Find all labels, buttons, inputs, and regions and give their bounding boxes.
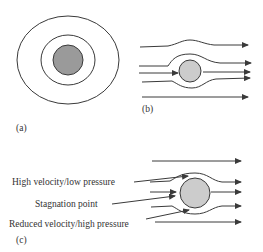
panel-a: (a)	[16, 16, 119, 134]
panel-c	[112, 161, 241, 222]
flow-diagram: (a) (b) High velocity/low pressure Stagn…	[0, 0, 263, 252]
panel-a-label: (a)	[16, 123, 27, 134]
streamline-1	[140, 40, 248, 47]
cylinder-c	[180, 178, 210, 208]
pointer-reduced-velocity	[146, 210, 189, 219]
panel-c-label: (c)	[16, 235, 27, 246]
panel-b	[139, 40, 251, 97]
panel-b-label: (b)	[142, 104, 153, 115]
label-reduced-velocity: Reduced velocity/high pressure	[9, 219, 129, 229]
cylinder-b	[179, 60, 201, 82]
pointer-stagnation	[112, 196, 175, 204]
cylinder-a	[53, 45, 83, 75]
label-high-velocity: High velocity/low pressure	[12, 177, 115, 187]
label-stagnation: Stagnation point	[35, 199, 98, 209]
